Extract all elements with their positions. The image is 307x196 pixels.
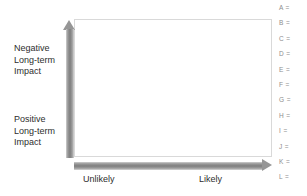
legend-item-f: F = [279, 81, 290, 89]
arrow-right-icon [262, 159, 272, 171]
y-axis-label-positive-line3: Impact [14, 137, 66, 149]
x-axis-arrow [74, 159, 272, 172]
legend: A =B =C =D =E =F =G =H =I =J =K =L = [279, 0, 307, 196]
y-axis-label-positive: Positive Long-term Impact [14, 114, 66, 149]
legend-item-k: K = [279, 158, 290, 166]
legend-item-c: C = [279, 35, 291, 43]
legend-item-j: J = [279, 143, 289, 151]
legend-item-e: E = [279, 66, 290, 74]
y-axis-label-negative-line1: Negative [14, 43, 66, 55]
y-axis-shaft [66, 29, 74, 158]
legend-item-a: A = [279, 4, 290, 12]
legend-item-d: D = [279, 50, 291, 58]
x-axis-label-unlikely: Unlikely [83, 174, 115, 185]
y-axis-label-negative-line2: Long-term [14, 55, 66, 67]
y-axis-label-positive-line1: Positive [14, 114, 66, 126]
legend-item-b: B = [279, 19, 290, 27]
y-axis-label-negative-line3: Impact [14, 66, 66, 78]
legend-item-i: I = [279, 127, 288, 135]
y-axis-label-negative: Negative Long-term Impact [14, 43, 66, 78]
legend-item-l: L = [279, 173, 289, 181]
x-axis-shaft [74, 162, 262, 170]
legend-item-h: H = [279, 112, 291, 120]
plot-area[interactable] [74, 19, 272, 157]
legend-item-g: G = [279, 96, 291, 104]
chart-canvas: Negative Long-term Impact Positive Long-… [0, 0, 307, 196]
y-axis-label-positive-line2: Long-term [14, 126, 66, 138]
x-axis-label-likely: Likely [199, 174, 222, 185]
